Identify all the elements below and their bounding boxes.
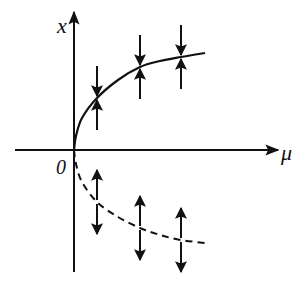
bifurcation-diagram: x μ 0 <box>0 0 308 286</box>
origin-label: 0 <box>56 156 66 178</box>
stable-branch-curve <box>74 53 205 150</box>
flow-arrows <box>97 25 181 272</box>
horizontal-axis-label: μ <box>280 140 292 165</box>
vertical-axis-label: x <box>56 13 67 38</box>
